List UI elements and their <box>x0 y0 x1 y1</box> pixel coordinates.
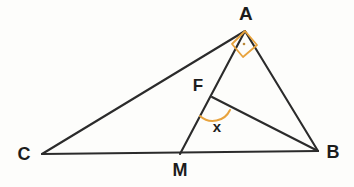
segment-CA <box>42 31 245 154</box>
right-angle-dot-icon <box>243 43 246 46</box>
vertex-label-m: M <box>172 160 187 181</box>
vertex-label-a: A <box>239 3 253 25</box>
angle-label-x: x <box>213 118 222 135</box>
segment-group <box>42 31 318 154</box>
vertex-label-f: F <box>193 76 204 96</box>
vertex-label-c: C <box>17 144 30 165</box>
segment-AM <box>180 31 245 154</box>
vertex-label-b: B <box>326 142 339 163</box>
geometry-diagram: A B C M F x <box>0 0 354 187</box>
